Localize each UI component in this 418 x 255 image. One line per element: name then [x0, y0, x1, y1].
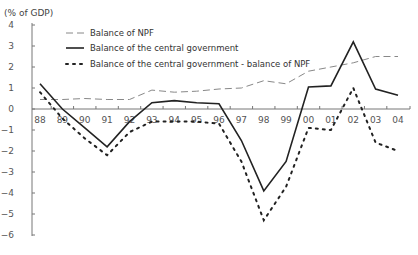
x-tick-label: 91: [101, 115, 112, 125]
legend: Balance of NPF Balance of the central go…: [66, 28, 310, 69]
y-tick-label: 4: [8, 20, 14, 30]
legend-label-npf: Balance of NPF: [90, 28, 154, 38]
y-tick-label: −3: [1, 167, 14, 177]
x-tick-label: 97: [236, 115, 247, 125]
y-axis-label: (% of GDP): [4, 8, 53, 18]
x-tick-label: 94: [169, 115, 181, 125]
x-tick-label: 89: [57, 115, 69, 125]
x-tick-label: 93: [146, 115, 157, 125]
y-tick-label: −1: [1, 125, 14, 135]
series-line-2: [40, 88, 398, 220]
y-tick-label: −2: [1, 146, 14, 156]
y-tick-label: −5: [1, 209, 14, 219]
x-tick-label: 88: [34, 115, 46, 125]
legend-label-difference: Balance of the central government - bala…: [90, 59, 310, 69]
x-tick-label: 95: [191, 115, 202, 125]
legend-label-central-gov: Balance of the central government: [90, 43, 239, 53]
x-axis: 8889909192939495969798990001020304: [32, 106, 410, 125]
x-tick-label: 02: [348, 115, 359, 125]
y-tick-label: 2: [8, 62, 14, 72]
x-tick-label: 99: [280, 115, 292, 125]
y-tick-label: −4: [1, 188, 15, 198]
x-tick-label: 04: [392, 115, 404, 125]
y-axis: 43210−1−2−3−4−5−6: [1, 20, 35, 240]
x-tick-label: 92: [124, 115, 135, 125]
y-tick-label: 1: [8, 83, 14, 93]
y-tick-label: 3: [8, 41, 14, 51]
y-tick-label: 0: [8, 104, 14, 114]
x-tick-label: 98: [258, 115, 270, 125]
x-tick-label: 03: [370, 115, 381, 125]
y-tick-label: −6: [1, 230, 15, 240]
x-tick-label: 00: [303, 115, 315, 125]
line-chart: (% of GDP) 43210−1−2−3−4−5−6 88899091929…: [0, 0, 418, 255]
